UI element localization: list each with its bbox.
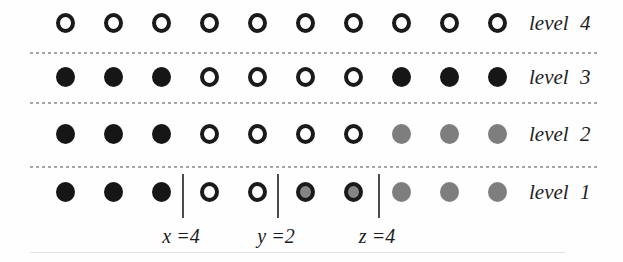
dot-open	[440, 13, 459, 33]
level-4-label: level 4	[529, 10, 590, 36]
level-separator-2-1	[30, 166, 597, 168]
dot-open	[200, 67, 219, 87]
dot-black	[152, 124, 171, 144]
dot-levels-diagram: level 4 level 3 level 2 level 1 x =4 y =…	[0, 0, 623, 262]
dot-black	[152, 182, 171, 202]
dot-black	[56, 67, 75, 87]
faint-scan-line	[30, 252, 565, 253]
dot-open	[248, 67, 267, 87]
pointer-bar-y	[277, 174, 279, 218]
dot-gray	[440, 124, 459, 144]
dot-black	[392, 67, 411, 87]
dot-open	[200, 124, 219, 144]
dot-open	[296, 124, 315, 144]
dot-black	[488, 67, 507, 87]
level-1-label: level 1	[529, 179, 590, 205]
pointer-z-label: z =4	[359, 224, 395, 248]
dot-open	[152, 13, 171, 33]
dot-open	[248, 124, 267, 144]
pointer-x-label: x =4	[162, 224, 199, 248]
dot-open	[392, 13, 411, 33]
dot-gray	[392, 124, 411, 144]
level-3-label: level 3	[529, 64, 590, 90]
dot-open	[104, 13, 123, 33]
dot-black	[152, 67, 171, 87]
dot-gray	[488, 182, 507, 202]
level-2-label: level 2	[529, 121, 590, 147]
dot-open	[248, 182, 267, 202]
dot-black	[104, 182, 123, 202]
dot-open	[248, 13, 267, 33]
dot-open	[344, 13, 363, 33]
dot-open	[200, 182, 219, 202]
dot-black	[104, 67, 123, 87]
pointer-bar-x	[182, 174, 184, 218]
dot-grayring	[296, 182, 315, 202]
dot-open	[296, 13, 315, 33]
dot-black	[104, 124, 123, 144]
dot-open	[488, 13, 507, 33]
dot-open	[200, 13, 219, 33]
dot-grayring	[344, 182, 363, 202]
dot-black	[440, 67, 459, 87]
dot-open	[344, 124, 363, 144]
dot-open	[56, 13, 75, 33]
dot-black	[56, 124, 75, 144]
dot-gray	[488, 124, 507, 144]
pointer-y-label: y =2	[257, 224, 294, 248]
dot-black	[56, 182, 75, 202]
dot-open	[296, 67, 315, 87]
pointer-bar-z	[378, 174, 380, 218]
level-separator-3-2	[30, 102, 597, 104]
dot-gray	[440, 182, 459, 202]
level-separator-4-3	[30, 52, 597, 54]
dot-open	[344, 67, 363, 87]
dot-gray	[392, 182, 411, 202]
